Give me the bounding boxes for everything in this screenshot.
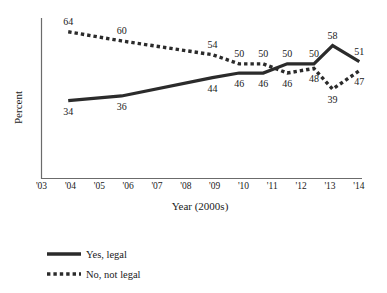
x-tick-label: '11 xyxy=(267,181,278,191)
data-point-label: 58 xyxy=(328,30,338,41)
data-point-label: 50 xyxy=(234,48,244,59)
data-point-label: 39 xyxy=(328,94,338,105)
data-point-label: 51 xyxy=(354,46,364,57)
x-tick-label: '09 xyxy=(209,181,220,191)
data-point-label: 34 xyxy=(63,106,73,117)
y-axis-title: Percent xyxy=(12,91,24,124)
data-point-label: 47 xyxy=(354,76,364,87)
data-point-label: 54 xyxy=(207,39,217,50)
x-tick-label: '07 xyxy=(151,181,162,191)
x-tick-label: '13 xyxy=(324,181,335,191)
data-point-label: 46 xyxy=(258,78,268,89)
x-tick-label: '12 xyxy=(295,181,306,191)
x-axis-title: Year (2000s) xyxy=(172,200,229,213)
data-point-label: 50 xyxy=(282,48,292,59)
data-point-label: 64 xyxy=(63,16,73,27)
legend-label-yes-legal: Yes, legal xyxy=(86,249,127,260)
data-point-label: 60 xyxy=(117,25,127,36)
data-point-label: 36 xyxy=(117,101,127,112)
data-point-label: 50 xyxy=(309,48,319,59)
x-tick-label: '10 xyxy=(238,181,249,191)
x-tick-label: '03 xyxy=(36,181,47,191)
data-point-label: 46 xyxy=(234,78,244,89)
x-tick-label: '14 xyxy=(353,181,364,191)
chart-canvas: Percent '03 '04 '05 '06 '07 '08 '09 '10 … xyxy=(0,0,387,293)
chart-legend: Yes, legal No, not legal xyxy=(47,249,141,280)
legend-label-no-not-legal: No, not legal xyxy=(86,269,141,280)
data-point-label: 48 xyxy=(309,73,319,84)
line-chart: Percent '03 '04 '05 '06 '07 '08 '09 '10 … xyxy=(0,0,387,293)
data-point-label: 46 xyxy=(282,78,292,89)
x-axis-ticks: '03 '04 '05 '06 '07 '08 '09 '10 '11 '12 … xyxy=(36,181,365,191)
x-tick-label: '06 xyxy=(122,181,133,191)
x-tick-label: '08 xyxy=(180,181,191,191)
x-tick-label: '04 xyxy=(65,181,76,191)
x-tick-label: '05 xyxy=(94,181,105,191)
data-point-label: 50 xyxy=(258,48,268,59)
data-point-label: 44 xyxy=(207,83,217,94)
